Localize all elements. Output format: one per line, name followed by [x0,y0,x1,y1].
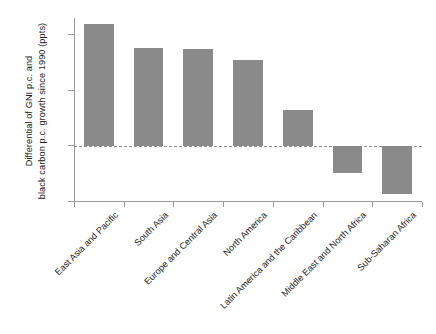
bar [134,48,164,146]
y-tick-mark [68,90,74,91]
bar [382,146,412,195]
x-axis-label: South Asia [0,210,170,334]
zero-reference-line [74,146,422,147]
x-tick-mark [74,202,75,207]
x-axis-spine [74,201,422,202]
y-axis-title-line-2: black carbon p.c. growth since 1990 (ppt… [36,23,49,199]
bar [233,60,263,145]
bar [333,146,363,174]
bar [183,49,213,145]
x-tick-mark [223,202,224,207]
bar-chart: Differential of GNI p.c. and black carbo… [0,0,436,334]
y-axis-spine [74,18,75,202]
x-tick-mark [422,202,423,207]
x-tick-mark [124,202,125,207]
x-axis-label: North America [0,210,270,334]
bar [283,110,313,145]
x-axis-label: Middle East and North Africa [79,210,370,334]
y-tick-mark [68,34,74,35]
x-tick-mark [323,202,324,207]
bar [84,24,114,146]
x-tick-mark [173,202,174,207]
x-tick-mark [372,202,373,207]
y-axis-title: Differential of GNI p.c. and black carbo… [14,7,58,215]
x-tick-mark [273,202,274,207]
y-axis-title-line-1: Differential of GNI p.c. and [23,56,36,167]
